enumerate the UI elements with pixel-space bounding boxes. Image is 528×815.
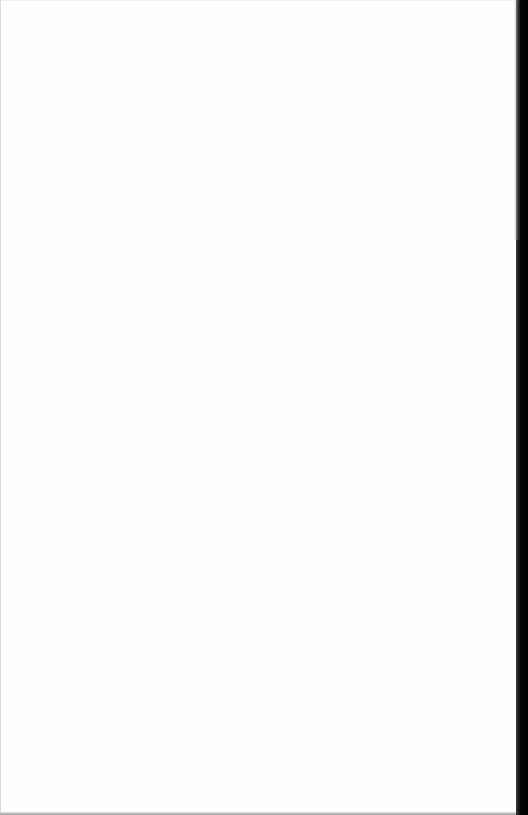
page-edge-fray [514, 0, 520, 240]
scanned-page-image [0, 0, 528, 815]
scan-speck [149, 187, 150, 188]
scan-speck [283, 27, 284, 28]
scan-speck [111, 91, 112, 92]
scan-speck [177, 553, 178, 554]
blank-page [0, 0, 516, 812]
scan-speck [33, 591, 34, 592]
